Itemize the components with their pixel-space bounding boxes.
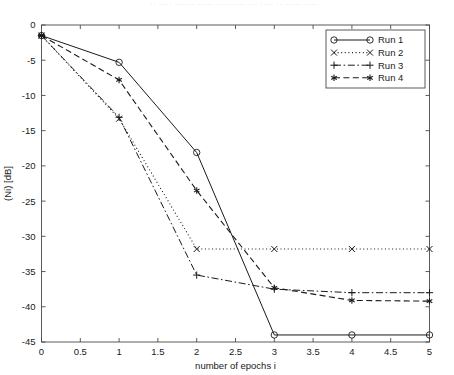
- series-marker: [193, 271, 200, 278]
- x-tick-label: 5: [427, 346, 432, 357]
- series-marker: [116, 114, 123, 121]
- y-tick-label: -45: [22, 336, 36, 347]
- x-tick-label: 3.5: [306, 346, 319, 357]
- series-marker: [271, 246, 277, 252]
- series-marker: [194, 246, 200, 252]
- figure-container: ·· ···· ······ ····· ········· ··· ···· …: [0, 0, 454, 375]
- y-tick-label: -10: [22, 90, 36, 101]
- x-tick-label: 4.5: [384, 346, 397, 357]
- x-tick-label: 0.5: [74, 346, 87, 357]
- series-marker: [426, 289, 433, 296]
- x-tick-label: 1: [116, 346, 121, 357]
- x-tick-label: 0: [39, 346, 44, 357]
- y-tick-label: -35: [22, 266, 36, 277]
- x-tick-label: 1.5: [151, 346, 164, 357]
- legend-box: [326, 30, 425, 88]
- y-tick-label: -15: [22, 125, 36, 136]
- x-tick-label: 3: [272, 346, 277, 357]
- x-axis-title: number of epochs i: [195, 360, 276, 371]
- series-marker: [348, 289, 355, 296]
- y-tick-label: 0: [30, 19, 35, 30]
- x-tick-label: 2: [194, 346, 199, 357]
- legend-label: Run 4: [378, 72, 403, 83]
- y-tick-label: -30: [22, 231, 36, 242]
- legend-layer: Run 1Run 2Run 3Run 4: [326, 30, 425, 88]
- y-tick-label: -40: [22, 301, 36, 312]
- y-tick-label: -25: [22, 196, 36, 207]
- line-chart: 00.511.522.533.544.550-5-10-15-20-25-30-…: [0, 0, 454, 375]
- x-tick-label: 2.5: [229, 346, 242, 357]
- legend-label: Run 3: [378, 60, 403, 71]
- x-tick-label: 4: [349, 346, 354, 357]
- legend-label: Run 1: [378, 34, 403, 45]
- y-axis-title: (Ni) [dB]: [2, 166, 13, 201]
- y-tick-label: -5: [27, 55, 35, 66]
- y-tick-label: -20: [22, 160, 36, 171]
- series-marker: [116, 77, 122, 83]
- legend-label: Run 2: [378, 47, 403, 58]
